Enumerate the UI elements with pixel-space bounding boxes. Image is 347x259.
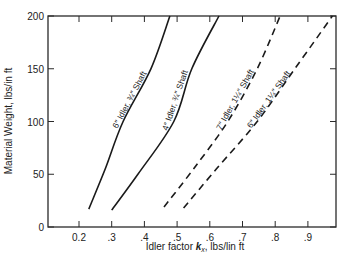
y-axis-title: Material Weight, lbs/in ft: [3, 68, 14, 175]
y-tick-label: 50: [33, 169, 45, 180]
x-tick-label: .3: [108, 232, 117, 243]
plot-frame: [48, 16, 336, 227]
chart: 0.2.3.4.5.6.7.8.9 050100150200 6″ Idler,…: [0, 0, 347, 259]
y-tick-label: 200: [27, 11, 44, 22]
curve-label-2: 4″ Idler, ¾″ Shaft: [160, 68, 190, 132]
x-tick-label: 0.2: [72, 232, 86, 243]
y-tick-label: 150: [27, 64, 44, 75]
y-tick-label: 100: [27, 117, 44, 128]
x-tick-label: .8: [271, 232, 280, 243]
y-axis-ticks: 050100150200: [27, 11, 336, 233]
x-axis-title: Idler factor kx, lbs/lin ft: [146, 241, 245, 253]
x-axis-ticks: 0.2.3.4.5.6.7.8.9: [72, 16, 312, 243]
curve-labels: 6″ Idler, ¾″ Shaft4″ Idler, ¾″ Shaft7″ I…: [110, 67, 293, 132]
curve-1: [89, 16, 170, 209]
y-tick-label: 0: [38, 222, 44, 233]
plot-border: [48, 16, 336, 227]
curve-label-1: 6″ Idler, ¾″ Shaft: [110, 69, 149, 130]
x-tick-label: .9: [304, 232, 313, 243]
